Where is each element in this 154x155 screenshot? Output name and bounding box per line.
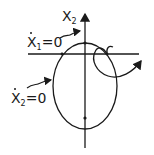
trajectory (94, 48, 141, 77)
nullcline-1-label: X1=0 (27, 34, 62, 52)
phase-plane-diagram: X2 X1=0 X2=0 (0, 0, 154, 155)
dot-accent-1 (30, 32, 32, 34)
pointer-squiggle-2 (27, 80, 51, 88)
point-top (83, 41, 86, 44)
nullcline-2-label: X2=0 (11, 90, 46, 108)
point-left (61, 53, 64, 56)
axis-label-x2: X2 (62, 8, 77, 26)
point-bottom (83, 116, 86, 119)
dot-accent-2 (14, 88, 16, 90)
pointer-squiggle-1 (60, 31, 80, 38)
